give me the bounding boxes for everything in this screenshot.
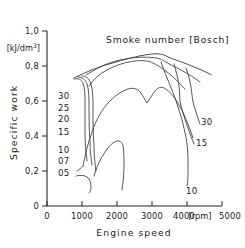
x-tick-label-3: 3000 bbox=[141, 211, 163, 221]
contour-05-tail bbox=[76, 175, 91, 193]
y-tick-label-2: 0,4 bbox=[25, 131, 39, 141]
y-tick-label-5: 1,0 bbox=[25, 26, 39, 36]
contour-label-30-left: 30 bbox=[58, 91, 69, 101]
x-tick-label-2: 2000 bbox=[106, 211, 128, 221]
x-axis-tick-labels: 0 1000 2000 3000 4000 5000 [rpm] bbox=[44, 211, 241, 221]
x-axis-ticks bbox=[47, 201, 222, 206]
chart-title: Smoke number [Bosch] bbox=[106, 34, 230, 45]
contour-label-25-left: 25 bbox=[58, 103, 69, 113]
y-axis-unit: [kJ/dm3] bbox=[7, 42, 40, 53]
chart-svg: 0 0,2 0,4 0,6 0,8 1,0 [kJ/dm3] Specific … bbox=[0, 0, 245, 248]
y-axis-unit-bracket: ] bbox=[37, 43, 40, 53]
contour-label-20-left: 20 bbox=[58, 114, 69, 124]
contour-30-right bbox=[186, 68, 200, 124]
contour-05-inner bbox=[94, 141, 124, 190]
smoke-number-chart: 0 0,2 0,4 0,6 0,8 1,0 [kJ/dm3] Specific … bbox=[0, 0, 245, 248]
contour-label-05-left: 05 bbox=[58, 168, 69, 178]
contour-label-15-right: 15 bbox=[196, 138, 207, 148]
x-axis-unit: [rpm] bbox=[189, 211, 212, 221]
contour-07-lobe bbox=[83, 87, 193, 166]
y-axis-unit-main: [kJ/dm bbox=[7, 43, 33, 53]
contour-label-10-right: 10 bbox=[186, 186, 197, 196]
y-axis-tick-labels: 0 0,2 0,4 0,6 0,8 1,0 bbox=[25, 26, 39, 211]
contour-30-left bbox=[74, 79, 87, 161]
x-tick-label-0: 0 bbox=[44, 211, 50, 221]
contour-label-15-left: 15 bbox=[58, 127, 69, 137]
x-axis-title: Engine speed bbox=[96, 227, 171, 238]
y-tick-label-3: 0,6 bbox=[25, 96, 39, 106]
contour-10-right bbox=[161, 62, 188, 186]
y-axis-ticks bbox=[42, 31, 47, 206]
y-axis-title: Specific work bbox=[8, 85, 19, 160]
y-tick-label-0: 0 bbox=[33, 201, 39, 211]
contour-label-10-left: 10 bbox=[58, 145, 69, 155]
y-tick-label-1: 0,2 bbox=[25, 166, 39, 176]
x-tick-label-5: 5000 bbox=[219, 211, 241, 221]
contour-07-tail bbox=[77, 166, 83, 171]
contour-label-07-left: 07 bbox=[58, 156, 69, 166]
contour-curves bbox=[74, 54, 211, 193]
y-tick-label-4: 0,8 bbox=[25, 61, 39, 71]
contour-label-30-right: 30 bbox=[201, 117, 212, 127]
contour-labels-left: 30 25 20 15 10 07 05 bbox=[58, 91, 69, 178]
x-tick-label-1: 1000 bbox=[71, 211, 93, 221]
